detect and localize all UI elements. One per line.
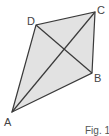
vertex-label-d: D — [27, 15, 35, 27]
vertex-label-b: B — [94, 72, 101, 84]
vertex-label-c: C — [97, 4, 105, 16]
quadrilateral-figure: A B C D Fig. 1 — [0, 0, 109, 136]
figure-caption: Fig. 1 — [85, 125, 109, 136]
vertex-label-a: A — [4, 116, 12, 128]
